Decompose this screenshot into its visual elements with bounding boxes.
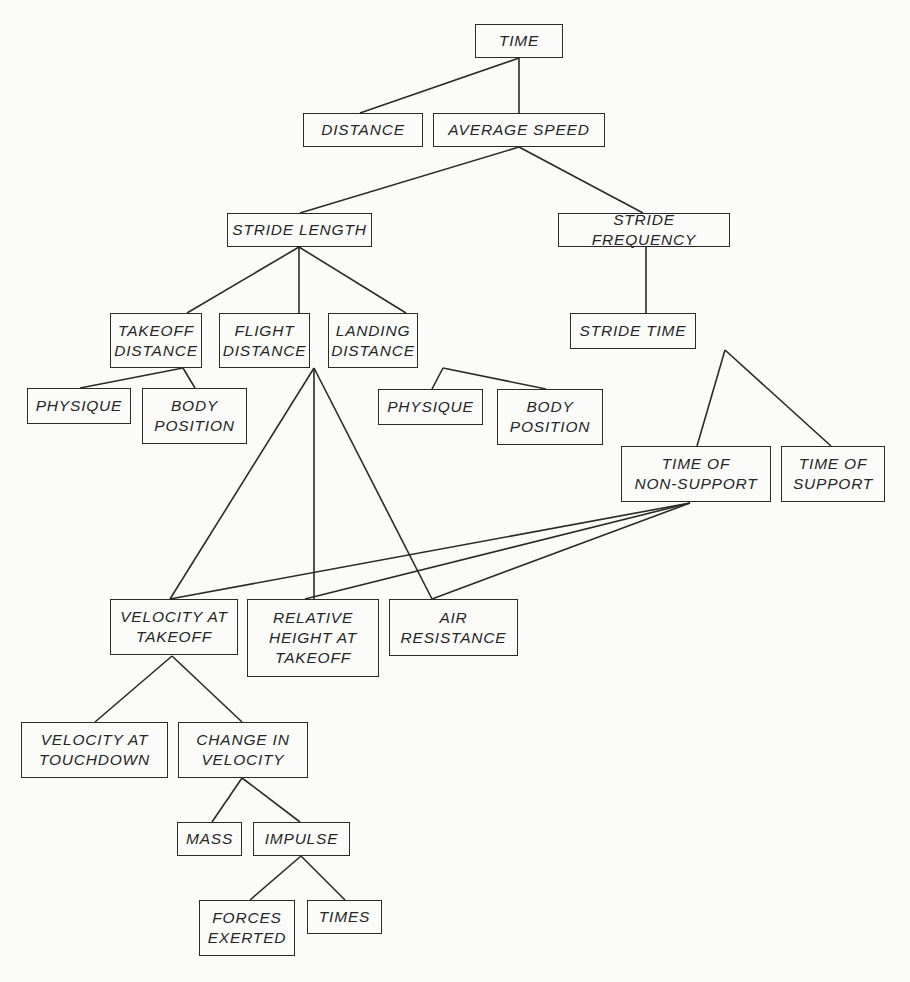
node-time-of-non-support: TIME OF NON-SUPPORT xyxy=(621,446,771,502)
node-label: TAKEOFF DISTANCE xyxy=(114,321,198,361)
edge-landing-distance-to-physique-2 xyxy=(432,368,443,389)
edge-velocity-at-takeoff-to-velocity-at-touchdown xyxy=(95,656,172,722)
node-label: STRIDE TIME xyxy=(580,321,687,341)
edge-time-of-non-support-to-air-resistance xyxy=(432,503,690,599)
node-label: STRIDE FREQUENCY xyxy=(559,210,729,250)
node-label: TIME OF SUPPORT xyxy=(793,454,873,494)
node-label: FLIGHT DISTANCE xyxy=(223,321,307,361)
node-label: CHANGE IN VELOCITY xyxy=(196,730,289,770)
node-velocity-at-takeoff: VELOCITY AT TAKEOFF xyxy=(110,599,238,655)
node-impulse: IMPULSE xyxy=(253,822,350,856)
node-time-of-support: TIME OF SUPPORT xyxy=(781,446,885,502)
node-label: FORCES EXERTED xyxy=(208,908,287,948)
node-label: PHYSIQUE xyxy=(36,396,123,416)
node-stride-time: STRIDE TIME xyxy=(570,313,696,349)
edge-takeoff-distance-to-body-position-1 xyxy=(183,368,195,388)
node-label: BODY POSITION xyxy=(154,396,234,436)
node-label: PHYSIQUE xyxy=(387,397,474,417)
edge-stride-time-to-time-of-non-support xyxy=(697,350,725,446)
node-label: AIR RESISTANCE xyxy=(401,608,507,648)
node-physique-1: PHYSIQUE xyxy=(27,388,131,424)
node-label: TIME OF NON-SUPPORT xyxy=(634,454,757,494)
node-stride-frequency: STRIDE FREQUENCY xyxy=(558,213,730,247)
edge-change-in-velocity-to-impulse xyxy=(242,778,300,822)
node-air-resistance: AIR RESISTANCE xyxy=(389,599,518,656)
node-mass: MASS xyxy=(177,822,242,856)
node-label: STRIDE LENGTH xyxy=(232,220,366,240)
node-label: VELOCITY AT TAKEOFF xyxy=(120,607,228,647)
connector-lines xyxy=(0,0,910,982)
node-stride-length: STRIDE LENGTH xyxy=(227,213,372,247)
node-label: IMPULSE xyxy=(265,829,339,849)
node-label: RELATIVE HEIGHT AT TAKEOFF xyxy=(269,608,357,668)
edge-impulse-to-times xyxy=(301,856,345,900)
node-body-position-2: BODY POSITION xyxy=(497,389,603,445)
node-label: TIME xyxy=(499,31,539,51)
edge-stride-time-to-time-of-support xyxy=(725,350,831,446)
edge-stride-length-to-landing-distance xyxy=(299,247,406,313)
node-label: DISTANCE xyxy=(321,120,405,140)
time-factor-tree-diagram: TIMEDISTANCEAVERAGE SPEEDSTRIDE LENGTHST… xyxy=(0,0,910,982)
edge-time-of-non-support-to-velocity-at-takeoff xyxy=(170,503,690,599)
node-velocity-at-touchdown: VELOCITY AT TOUCHDOWN xyxy=(21,722,168,778)
node-label: LANDING DISTANCE xyxy=(331,321,415,361)
node-label: BODY POSITION xyxy=(510,397,590,437)
node-times: TIMES xyxy=(307,900,382,934)
node-average-speed: AVERAGE SPEED xyxy=(433,113,605,147)
edge-average-speed-to-stride-length xyxy=(300,147,519,213)
node-label: VELOCITY AT TOUCHDOWN xyxy=(39,730,150,770)
edge-impulse-to-forces-exerted xyxy=(250,856,301,900)
edge-landing-distance-to-body-position-2 xyxy=(443,368,546,389)
node-forces-exerted: FORCES EXERTED xyxy=(199,900,295,956)
node-time: TIME xyxy=(475,24,563,58)
node-physique-2: PHYSIQUE xyxy=(378,389,483,425)
node-label: TIMES xyxy=(319,907,370,927)
node-label: AVERAGE SPEED xyxy=(448,120,589,140)
edge-time-to-distance xyxy=(360,58,519,113)
edge-change-in-velocity-to-mass xyxy=(212,778,242,822)
node-landing-distance: LANDING DISTANCE xyxy=(328,313,418,368)
node-flight-distance: FLIGHT DISTANCE xyxy=(219,313,310,368)
node-change-in-velocity: CHANGE IN VELOCITY xyxy=(178,722,308,778)
node-body-position-1: BODY POSITION xyxy=(142,388,247,444)
node-takeoff-distance: TAKEOFF DISTANCE xyxy=(110,313,202,368)
edge-takeoff-distance-to-physique-1 xyxy=(80,368,183,388)
edge-velocity-at-takeoff-to-change-in-velocity xyxy=(172,656,242,722)
edge-time-of-non-support-to-relative-height-at-takeoff xyxy=(305,503,690,599)
node-relative-height-at-takeoff: RELATIVE HEIGHT AT TAKEOFF xyxy=(247,599,379,677)
edge-average-speed-to-stride-frequency xyxy=(519,147,643,213)
edge-stride-length-to-takeoff-distance xyxy=(187,247,299,313)
node-distance: DISTANCE xyxy=(303,113,423,147)
node-label: MASS xyxy=(186,829,233,849)
